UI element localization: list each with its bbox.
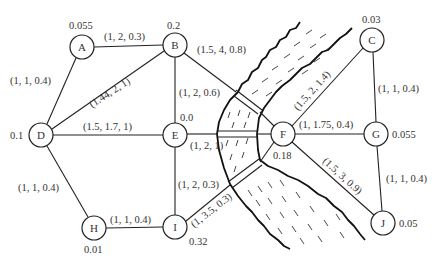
bridges <box>217 90 262 188</box>
node-c-value: 0.03 <box>362 14 380 25</box>
edge-label-f-g: (1, 1.75, 0.4) <box>299 119 354 131</box>
edge-a-d <box>47 58 76 124</box>
node-h-label: H <box>90 222 98 234</box>
edge-label-h-i: (1, 1, 0.4) <box>110 214 152 226</box>
node-f-label: F <box>280 128 286 140</box>
node-h: H <box>82 216 106 240</box>
edge-label-c-g: (1, 1, 0.4) <box>378 83 420 95</box>
node-g-label: G <box>372 128 380 140</box>
edge-label-f-j: (1.5, 3, 0.9) <box>320 155 365 197</box>
node-a-label: A <box>78 41 86 53</box>
edge-label-i-f: (1, 3.5, 0.3) <box>188 190 234 230</box>
edge-label-f-c: (1.5, 2, 1.4) <box>291 68 333 113</box>
node-f: F <box>271 122 295 146</box>
node-i: I <box>163 215 187 239</box>
edge-h-i <box>106 227 163 228</box>
node-j-value: 0.05 <box>399 218 417 229</box>
node-d: D <box>29 123 53 147</box>
node-c: C <box>360 28 384 52</box>
edge-a-b <box>94 45 163 47</box>
edge-b-f-2 <box>260 112 274 126</box>
edge-label-a-d: (1, 1, 0.4) <box>10 75 52 87</box>
network-diagram: (1, 2, 0.3) (1, 1, 0.4) (1.44, 2, 1) (1.… <box>0 0 442 265</box>
edge-i-f-2 <box>260 142 274 162</box>
node-a: A <box>70 35 94 59</box>
node-j: J <box>371 211 395 235</box>
node-a-value: 0.055 <box>69 20 93 31</box>
edge-g-j <box>377 146 382 211</box>
node-d-label: D <box>37 129 45 141</box>
edge-label-b-f: (1.5, 4, 0.8) <box>197 44 246 56</box>
edge-label-b-e: (1, 2, 0.6) <box>179 87 221 99</box>
node-e: E <box>163 123 187 147</box>
node-g: G <box>364 122 388 146</box>
node-i-label: I <box>173 221 177 233</box>
edge-label-a-b: (1, 2, 0.3) <box>104 31 146 43</box>
edge-label-d-h: (1, 1, 0.4) <box>18 182 60 194</box>
node-d-value: 0.1 <box>10 130 23 141</box>
node-f-value: 0.18 <box>273 150 291 161</box>
node-b-value: 0.2 <box>167 20 180 31</box>
edge-label-e-f: (1, 2, 1) <box>190 140 224 152</box>
node-j-label: J <box>381 217 386 229</box>
node-i-value: 0.32 <box>189 236 207 247</box>
edge-f-c <box>292 48 363 126</box>
node-c-label: C <box>368 34 375 46</box>
edge-label-e-i: (1, 2, 0.3) <box>178 179 220 191</box>
node-e-value: 0.0 <box>180 112 193 123</box>
edge-label-d-b: (1.44, 2, 1) <box>87 75 133 111</box>
node-h-value: 0.01 <box>84 244 102 255</box>
node-e-label: E <box>172 129 179 141</box>
node-b: B <box>163 33 187 57</box>
edge-label-g-j: (1, 1, 0.4) <box>386 173 428 185</box>
edge-c-g <box>373 52 376 122</box>
edge-label-d-e: (1.5, 1.7, 1) <box>83 121 132 133</box>
node-g-value: 0.055 <box>392 129 416 140</box>
node-b-label: B <box>171 39 178 51</box>
